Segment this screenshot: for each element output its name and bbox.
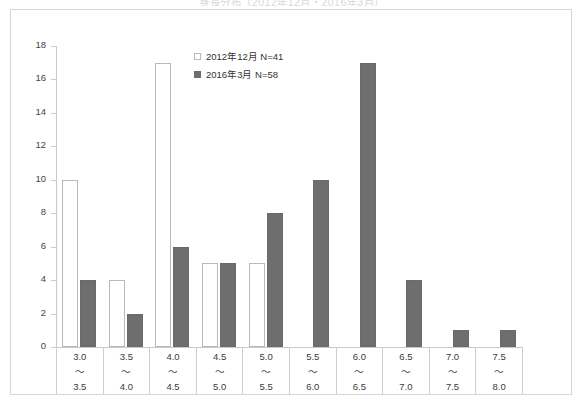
bar[interactable]: [62, 180, 78, 347]
bar-group: [196, 46, 243, 347]
y-axis-tick-label: 16: [16, 72, 46, 83]
y-axis-tick-label: 10: [16, 173, 46, 184]
bar[interactable]: [155, 63, 171, 347]
y-axis-tick-label: 18: [16, 39, 46, 50]
bar[interactable]: [249, 263, 265, 347]
category-range-separator: ～: [168, 366, 178, 377]
bar[interactable]: [360, 63, 376, 347]
category-range-separator: ～: [121, 366, 131, 377]
category-range-separator: ～: [308, 366, 318, 377]
category-lower-bound: 7.5: [493, 351, 506, 362]
bar-group: [56, 46, 103, 347]
category-lower-bound: 3.0: [73, 351, 86, 362]
y-axis-tick-label: 8: [16, 206, 46, 217]
bar[interactable]: [202, 263, 218, 347]
chart-container: 身長分布（2012年12月・2016年3月） 024681012141618 2…: [0, 0, 584, 406]
x-axis-category-cell: 7.0～7.5: [430, 348, 477, 394]
x-axis-category-cell: 6.0～6.5: [337, 348, 384, 394]
x-axis-category-cell: 3.0～3.5: [57, 348, 104, 394]
category-lower-bound: 6.5: [399, 351, 412, 362]
x-axis-category-cell: 7.5～8.0: [476, 348, 523, 394]
category-upper-bound: 7.0: [399, 381, 412, 392]
bar[interactable]: [220, 263, 236, 347]
category-range-separator: ～: [448, 366, 458, 377]
x-axis-category-cell: 4.5～5.0: [197, 348, 244, 394]
y-axis-tick-label: 6: [16, 240, 46, 251]
category-upper-bound: 4.0: [120, 381, 133, 392]
legend-item-label: 2016年3月 N=58: [206, 67, 278, 82]
y-axis-tick-label: 4: [16, 273, 46, 284]
bar[interactable]: [500, 330, 516, 347]
x-axis-category-cell: 3.5～4.0: [104, 348, 151, 394]
category-lower-bound: 6.0: [353, 351, 366, 362]
legend-item: 2016年3月 N=58: [194, 67, 283, 82]
legend-item-label: 2012年12月 N=41: [206, 49, 283, 64]
y-axis-tick-label: 0: [16, 340, 46, 351]
chart-legend: 2012年12月 N=41 2016年3月 N=58: [194, 49, 283, 85]
bar-group: [475, 46, 522, 347]
category-upper-bound: 4.5: [166, 381, 179, 392]
category-range-separator: ～: [75, 366, 85, 377]
x-axis-category-cell: 4.0～4.5: [150, 348, 197, 394]
category-upper-bound: 3.5: [73, 381, 86, 392]
y-axis-tick-label: 12: [16, 139, 46, 150]
bar[interactable]: [173, 247, 189, 347]
open-square-icon: [194, 53, 201, 60]
bar-group: [242, 46, 289, 347]
chart-title: 身長分布（2012年12月・2016年3月）: [0, 0, 584, 6]
bar-group: [336, 46, 383, 347]
bar[interactable]: [80, 280, 96, 347]
category-upper-bound: 5.5: [260, 381, 273, 392]
category-upper-bound: 6.0: [306, 381, 319, 392]
bar-group: [289, 46, 336, 347]
plot-area: [56, 46, 522, 347]
category-lower-bound: 5.0: [260, 351, 273, 362]
filled-square-icon: [194, 71, 201, 78]
category-range-separator: ～: [401, 366, 411, 377]
bar-group: [103, 46, 150, 347]
y-axis-tick-label: 14: [16, 106, 46, 117]
bar[interactable]: [406, 280, 422, 347]
category-lower-bound: 5.5: [306, 351, 319, 362]
category-upper-bound: 6.5: [353, 381, 366, 392]
category-upper-bound: 5.0: [213, 381, 226, 392]
category-upper-bound: 7.5: [446, 381, 459, 392]
bar[interactable]: [313, 180, 329, 347]
x-axis-category-cell: 6.5～7.0: [383, 348, 430, 394]
bar[interactable]: [109, 280, 125, 347]
bar-group: [382, 46, 429, 347]
x-axis-category-cell: 5.5～6.0: [290, 348, 337, 394]
bar[interactable]: [453, 330, 469, 347]
x-axis-category-table: 3.0～3.53.5～4.04.0～4.54.5～5.05.0～5.55.5～6…: [56, 348, 523, 394]
chart-frame: 024681012141618 2012年12月 N=41 2016年3月 N=…: [10, 9, 572, 395]
bar[interactable]: [127, 314, 143, 347]
category-lower-bound: 3.5: [120, 351, 133, 362]
bar-group: [149, 46, 196, 347]
y-axis-tick-label: 2: [16, 307, 46, 318]
category-upper-bound: 8.0: [493, 381, 506, 392]
category-range-separator: ～: [261, 366, 271, 377]
bar-group: [429, 46, 476, 347]
category-lower-bound: 7.0: [446, 351, 459, 362]
category-range-separator: ～: [215, 366, 225, 377]
category-range-separator: ～: [494, 366, 504, 377]
category-lower-bound: 4.5: [213, 351, 226, 362]
category-range-separator: ～: [354, 366, 364, 377]
category-lower-bound: 4.0: [166, 351, 179, 362]
x-axis-category-cell: 5.0～5.5: [243, 348, 290, 394]
legend-item: 2012年12月 N=41: [194, 49, 283, 64]
bar[interactable]: [267, 213, 283, 347]
